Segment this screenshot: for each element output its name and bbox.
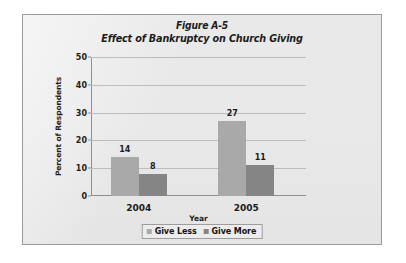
chart-panel: Figure A-5 Effect of Bankruptcy on Churc… [22,14,382,245]
x-category-label: 2005 [234,203,259,213]
bar-value-label: 8 [150,162,156,171]
chart-legend: Give LessGive More [142,224,263,239]
y-tick-label: 0 [81,192,87,201]
bar-group: 2711 [218,57,274,196]
bar-group: 148 [111,57,167,196]
y-tick-mark [88,112,91,113]
legend-label: Give Less [155,227,197,236]
y-axis-title: Percent of Respondents [53,57,65,196]
legend-swatch-icon [147,229,152,234]
y-tick-label: 10 [76,164,87,173]
bar[interactable]: 8 [139,174,167,196]
legend-item[interactable]: Give Less [147,227,197,236]
bar-value-label: 14 [119,145,130,154]
x-category-label: 2004 [126,203,151,213]
y-tick-label: 30 [76,108,87,117]
legend-label: Give More [212,227,257,236]
bar[interactable]: 27 [218,121,246,196]
y-tick-mark [88,57,91,58]
y-tick-mark [88,168,91,169]
y-tick-label: 20 [76,136,87,145]
figure-number: Figure A-5 [37,20,366,32]
chart-title: Figure A-5 Effect of Bankruptcy on Churc… [23,20,381,44]
legend-swatch-icon [204,229,209,234]
y-tick-label: 40 [76,80,87,89]
bar[interactable]: 11 [246,165,274,196]
y-tick-mark [88,140,91,141]
figure-root: Figure A-5 Effect of Bankruptcy on Churc… [0,0,406,263]
figure-caption: Effect of Bankruptcy on Church Giving [37,32,366,44]
x-axis-title: Year [91,214,306,223]
bar[interactable]: 14 [111,157,139,196]
y-tick-mark [88,84,91,85]
bar-value-label: 27 [227,109,238,118]
y-tick-mark [88,196,91,197]
plot-area: 01020304050 1482711 20042005 [91,57,306,196]
legend-item[interactable]: Give More [204,227,257,236]
y-tick-label: 50 [76,53,87,62]
bar-value-label: 11 [255,153,266,162]
